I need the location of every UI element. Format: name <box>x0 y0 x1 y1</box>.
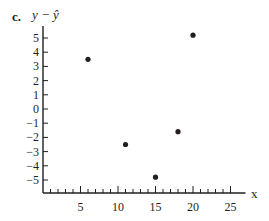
y-tick-label: −5 <box>26 173 39 187</box>
y-tick-label: 0 <box>33 102 39 116</box>
x-tick-label: 10 <box>112 200 124 214</box>
y-tick-label: 3 <box>33 59 39 73</box>
data-point <box>153 175 158 180</box>
y-tick-label: 4 <box>33 45 39 59</box>
x-tick-label: 5 <box>78 200 84 214</box>
x-tick-label: 20 <box>187 200 199 214</box>
y-tick-label: −2 <box>26 130 39 144</box>
residual-scatter-plot: −5−4−3−2−1012345510152025 <box>0 0 269 221</box>
y-tick-label: −3 <box>26 145 39 159</box>
y-tick-label: −1 <box>26 116 39 130</box>
data-point <box>85 57 90 62</box>
y-tick-label: 2 <box>33 74 39 88</box>
y-tick-label: −4 <box>26 159 39 173</box>
y-tick-label: 1 <box>33 88 39 102</box>
data-point <box>190 33 195 38</box>
data-point <box>123 142 128 147</box>
data-point <box>175 129 180 134</box>
x-tick-label: 25 <box>225 200 237 214</box>
y-tick-label: 5 <box>33 31 39 45</box>
x-tick-label: 15 <box>150 200 162 214</box>
